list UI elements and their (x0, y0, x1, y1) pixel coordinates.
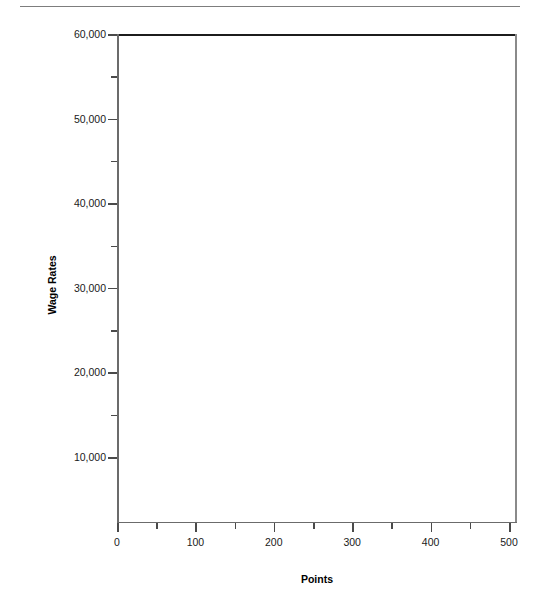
x-axis-title: Points (301, 573, 333, 585)
y-axis-label-40000: 40,000 (74, 197, 106, 209)
plot-frame: 60,000 50,000 40,000 30,000 20,000 10,00… (117, 34, 517, 523)
y-axis-line (117, 34, 119, 523)
x-axis-tick-200 (274, 523, 276, 532)
y-axis-label-10000: 10,000 (74, 451, 106, 463)
y-axis-tick-minor-25000 (111, 330, 117, 332)
y-axis-tick-30000 (108, 288, 117, 290)
x-axis-label-400: 400 (422, 536, 440, 548)
x-axis-tick-minor-250 (313, 523, 315, 529)
x-axis-tick-300 (352, 523, 354, 532)
x-axis-label-200: 200 (265, 536, 283, 548)
y-axis-tick-minor-15000 (111, 415, 117, 417)
y-axis-tick-60000 (108, 34, 117, 36)
x-axis-tick-0 (117, 523, 119, 532)
y-axis-label-20000: 20,000 (74, 366, 106, 378)
x-axis-label-500: 500 (500, 536, 518, 548)
x-axis-label-100: 100 (187, 536, 205, 548)
y-axis-label-50000: 50,000 (74, 113, 106, 125)
y-axis-tick-50000 (108, 119, 117, 121)
y-axis-tick-20000 (108, 372, 117, 374)
plot-top-border (117, 34, 517, 36)
x-axis-tick-minor-350 (391, 523, 393, 529)
x-axis-tick-100 (195, 523, 197, 532)
x-axis-tick-minor-50 (156, 523, 158, 529)
y-axis-label-30000: 30,000 (74, 282, 106, 294)
plot-right-border (515, 34, 517, 523)
y-axis-label-60000: 60,000 (74, 28, 106, 40)
y-axis-tick-minor-55000 (111, 76, 117, 78)
y-axis-tick-minor-35000 (111, 246, 117, 248)
x-axis-tick-400 (431, 523, 433, 532)
y-axis-tick-10000 (108, 457, 117, 459)
x-axis-label-0: 0 (114, 536, 120, 548)
y-axis-title: Wage Rates (46, 255, 58, 314)
x-axis-line (117, 522, 517, 524)
y-axis-tick-minor-45000 (111, 161, 117, 163)
chart-figure: 60,000 50,000 40,000 30,000 20,000 10,00… (0, 0, 535, 607)
y-axis-tick-40000 (108, 203, 117, 205)
x-axis-tick-minor-150 (235, 523, 237, 529)
x-axis-tick-minor-450 (470, 523, 472, 529)
x-axis-label-300: 300 (343, 536, 361, 548)
plot-area (119, 36, 516, 522)
x-axis-tick-500 (509, 523, 511, 532)
